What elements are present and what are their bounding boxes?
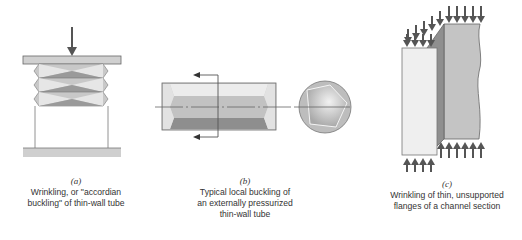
caption-b-line-3: thin-wall tube <box>150 209 340 220</box>
caption-b: (b) Typical local buckling of an externa… <box>150 176 340 220</box>
caption-a-line-2: buckling" of thin-wall tube <box>2 198 150 209</box>
caption-b-line-2: an externally pressurized <box>150 198 340 209</box>
caption-b-line-1: Typical local buckling of <box>150 187 340 198</box>
figure-label-c: (c) <box>372 179 522 190</box>
caption-a-line-1: Wrinkling, or "accordian <box>2 187 150 198</box>
caption-c-line-2: flanges of a channel section <box>372 201 522 212</box>
channel-web <box>444 24 481 139</box>
front-flange <box>402 48 437 155</box>
figure-label-b: (b) <box>150 176 340 187</box>
figure-label-a: (a) <box>2 176 150 187</box>
caption-c-line-1: Wrinkling of thin, unsupported <box>372 190 522 201</box>
caption-c: (c) Wrinkling of thin, unsupported flang… <box>372 179 522 212</box>
caption-a: (a) Wrinkling, or "accordian buckling" o… <box>2 176 150 209</box>
